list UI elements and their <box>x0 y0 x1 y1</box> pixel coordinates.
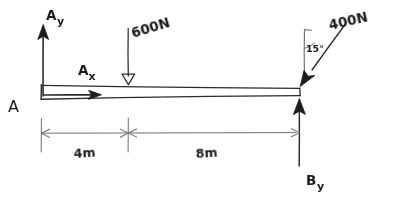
diagram-canvas: A A y A x 600N <box>0 0 394 210</box>
reaction-ay-label-main: A <box>46 7 57 23</box>
dimension-label-8m: 8m <box>195 145 218 161</box>
free-body-diagram: A A y A x 600N <box>0 0 394 210</box>
reaction-ax-label-main: A <box>78 62 89 78</box>
reaction-ay-label-sub: y <box>57 15 64 28</box>
angle-reference-tick <box>305 30 312 31</box>
dimension-label-4m: 4m <box>73 145 96 161</box>
angle-15-degree-label: 15° <box>306 43 324 54</box>
support-point-label-a: A <box>8 97 19 116</box>
reaction-by-label-main: B <box>306 172 316 188</box>
reaction-ax-label-sub: x <box>89 70 96 83</box>
reaction-by-label-sub: y <box>317 180 324 193</box>
